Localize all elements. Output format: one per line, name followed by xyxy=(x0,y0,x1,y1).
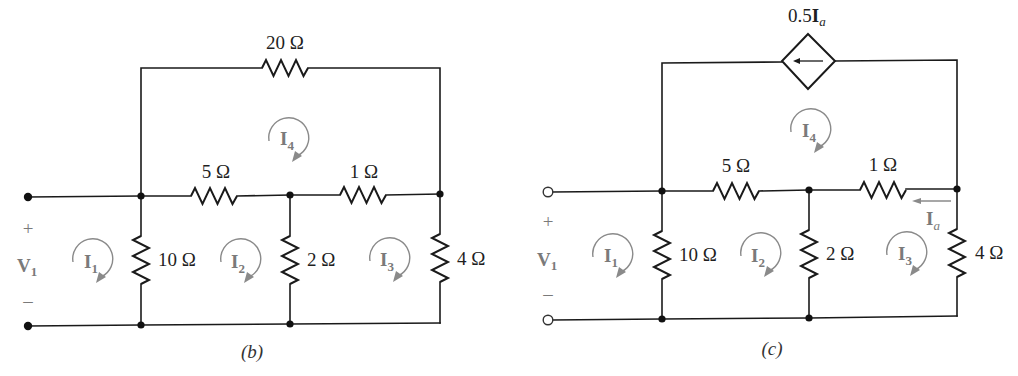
node-dot xyxy=(658,315,665,322)
source-plus-sign: + xyxy=(543,211,554,232)
node-dot xyxy=(286,191,293,198)
resistor-10-ohm xyxy=(654,231,670,279)
terminal-positive xyxy=(543,187,553,197)
diagram-c: 0.5Ia Ia 5 Ω 1 Ω 10 Ω 2 Ω 4 Ω + – V1 xyxy=(537,5,1003,360)
label-1-ohm: 1 Ω xyxy=(350,161,378,182)
mesh-label-i1: I1 xyxy=(84,251,98,276)
source-label-v1: V1 xyxy=(537,249,557,273)
label-4-ohm: 4 Ω xyxy=(975,242,1003,263)
node-dot xyxy=(658,187,665,194)
node-dot xyxy=(805,314,812,321)
terminal-negative xyxy=(24,322,32,330)
mesh-label-i3: I3 xyxy=(898,243,912,268)
caption-c: (c) xyxy=(761,338,782,360)
resistor-1-ohm xyxy=(860,182,906,198)
node-dot xyxy=(137,192,144,199)
resistor-10-ohm xyxy=(133,236,149,284)
label-4-ohm: 4 Ω xyxy=(457,248,485,269)
node-dot xyxy=(286,320,293,327)
source-minus-sign: – xyxy=(542,283,553,304)
branch-current-label-ia: Ia xyxy=(926,208,940,233)
source-minus-sign: – xyxy=(22,290,33,311)
diagram-c-wires xyxy=(552,60,957,320)
label-10-ohm: 10 Ω xyxy=(679,244,717,265)
mesh-label-i3: I3 xyxy=(380,249,394,274)
dependent-source-label: 0.5Ia xyxy=(788,5,826,29)
source-label-v1: V1 xyxy=(17,255,37,279)
node-dot xyxy=(137,321,144,328)
label-10-ohm: 10 Ω xyxy=(158,249,196,270)
resistor-4-ohm xyxy=(949,229,965,277)
mesh-label-i4: I4 xyxy=(280,128,294,153)
node-dot xyxy=(805,186,812,193)
label-20-ohm: 20 Ω xyxy=(266,32,304,53)
resistor-5-ohm xyxy=(191,188,237,204)
label-5-ohm: 5 Ω xyxy=(202,161,230,182)
resistor-2-ohm xyxy=(801,230,817,278)
terminal-negative xyxy=(543,315,553,325)
resistor-5-ohm xyxy=(713,183,759,199)
resistor-20-ohm xyxy=(262,60,308,76)
branch-current-arrow-ia xyxy=(912,198,951,204)
resistor-4-ohm xyxy=(432,234,448,282)
node-dot xyxy=(953,185,960,192)
node-dot xyxy=(436,190,443,197)
mesh-label-i2: I2 xyxy=(231,251,245,276)
source-plus-sign: + xyxy=(23,218,34,239)
label-1-ohm: 1 Ω xyxy=(869,154,897,175)
resistor-1-ohm xyxy=(340,187,386,203)
circuit-figure: 20 Ω 5 Ω 1 Ω 10 Ω 2 Ω 4 Ω + – V1 I1 I2 I… xyxy=(0,0,1018,376)
label-2-ohm: 2 Ω xyxy=(307,249,335,270)
label-2-ohm: 2 Ω xyxy=(826,243,854,264)
mesh-label-i4: I4 xyxy=(802,120,816,145)
mesh-label-i2: I2 xyxy=(751,245,765,270)
diagram-b: 20 Ω 5 Ω 1 Ω 10 Ω 2 Ω 4 Ω + – V1 I1 I2 I… xyxy=(17,32,485,363)
resistor-2-ohm xyxy=(282,236,298,284)
caption-b: (b) xyxy=(241,341,263,363)
dependent-current-source xyxy=(782,34,835,89)
mesh-label-i1: I1 xyxy=(604,245,618,270)
terminal-positive xyxy=(24,193,32,201)
label-5-ohm: 5 Ω xyxy=(722,155,750,176)
